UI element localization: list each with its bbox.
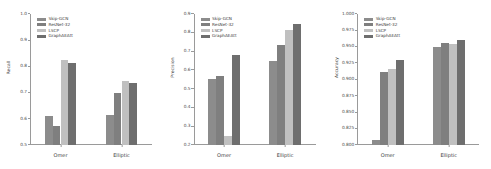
- y-tick-mark: [28, 118, 30, 119]
- legend-swatch-icon: [37, 35, 46, 38]
- legend-item: ResNet-32: [37, 23, 73, 27]
- x-tick-mark: [60, 145, 61, 147]
- legend-swatch-icon: [364, 18, 373, 21]
- bar: [129, 83, 137, 145]
- legend-item: GraphAEAtt: [201, 34, 237, 38]
- legend-swatch-icon: [364, 35, 373, 38]
- bar: [388, 69, 396, 145]
- y-tick-mark: [191, 51, 193, 52]
- legend-item: ResNet-32: [364, 23, 400, 27]
- bar: [433, 47, 441, 145]
- legend-item: Skip-GCN: [364, 17, 400, 21]
- x-tick-label: Elliptic: [440, 152, 457, 158]
- y-tick-mark: [191, 69, 193, 70]
- legend-label: Skip-GCN: [49, 17, 69, 21]
- legend-swatch-icon: [364, 23, 373, 26]
- y-tick-mark: [191, 88, 193, 89]
- legend-item: LSCP: [364, 29, 400, 33]
- y-axis-label-precision: Precision: [166, 0, 180, 134]
- x-tick-mark: [387, 145, 388, 147]
- bar: [449, 44, 457, 145]
- y-tick-mark: [355, 128, 357, 129]
- legend-label: Skip-GCN: [376, 17, 396, 21]
- y-tick-mark: [28, 40, 30, 41]
- legend-item: Skip-GCN: [37, 17, 73, 21]
- bar: [106, 115, 114, 145]
- bar: [224, 136, 232, 145]
- y-tick-mark: [355, 62, 357, 63]
- bar: [441, 43, 449, 145]
- bar: [277, 45, 285, 145]
- y-tick-mark: [191, 144, 193, 145]
- legend-item: LSCP: [37, 29, 73, 33]
- legend-precision: Skip-GCNResNet-32LSCPGraphAEAtt: [201, 17, 237, 39]
- legend-recall: Skip-GCNResNet-32LSCPGraphAEAtt: [37, 17, 73, 39]
- legend-label: ResNet-32: [212, 23, 234, 27]
- y-tick-mark: [191, 126, 193, 127]
- legend-item: LSCP: [201, 29, 237, 33]
- legend-label: GraphAEAtt: [49, 34, 73, 38]
- bar: [45, 116, 53, 145]
- legend-item: GraphAEAtt: [37, 34, 73, 38]
- y-tick-mark: [355, 95, 357, 96]
- legend-swatch-icon: [201, 35, 210, 38]
- y-tick-mark: [28, 66, 30, 67]
- chart-panel-precision: Precision 0.20.30.40.50.60.70.80.9 OmerE…: [164, 0, 328, 169]
- y-axis-line: [194, 14, 195, 145]
- bar: [122, 81, 130, 145]
- bar: [68, 63, 76, 145]
- legend-label: GraphAEAtt: [212, 34, 236, 38]
- bar: [232, 55, 240, 145]
- bar: [53, 126, 61, 145]
- y-tick-mark: [191, 13, 193, 14]
- legend-label: LSCP: [212, 29, 222, 33]
- bar: [61, 60, 69, 145]
- x-tick-label: Omer: [217, 152, 231, 158]
- y-tick-mark: [355, 30, 357, 31]
- bar: [293, 24, 301, 145]
- chart-panel-accuracy: Accuracy 0.8000.8250.8500.8750.9000.9250…: [327, 0, 491, 169]
- x-tick-mark: [448, 145, 449, 147]
- y-tick-mark: [191, 107, 193, 108]
- x-tick-label: Omer: [381, 152, 395, 158]
- legend-swatch-icon: [37, 18, 46, 21]
- bar: [216, 76, 224, 145]
- y-tick-mark: [355, 144, 357, 145]
- legend-label: Skip-GCN: [212, 17, 232, 21]
- legend-label: LSCP: [49, 29, 59, 33]
- chart-panel-recall: Recall 0.50.60.70.80.91.0 OmerElliptic S…: [0, 0, 164, 169]
- x-tick-label: Elliptic: [113, 152, 130, 158]
- figure-grouped-bar-charts: Recall 0.50.60.70.80.91.0 OmerElliptic S…: [0, 0, 491, 169]
- bar: [285, 30, 293, 145]
- legend-swatch-icon: [201, 29, 210, 32]
- y-tick-mark: [191, 32, 193, 33]
- legend-swatch-icon: [37, 29, 46, 32]
- y-tick-mark: [355, 46, 357, 47]
- y-tick-mark: [355, 13, 357, 14]
- bar: [269, 61, 277, 145]
- y-tick-mark: [28, 13, 30, 14]
- y-tick-mark: [28, 92, 30, 93]
- x-tick-mark: [285, 145, 286, 147]
- y-tick-mark: [355, 79, 357, 80]
- x-tick-mark: [121, 145, 122, 147]
- bar: [396, 60, 404, 145]
- legend-label: GraphAEAtt: [376, 34, 400, 38]
- legend-label: ResNet-32: [49, 23, 71, 27]
- bar: [114, 93, 122, 145]
- x-tick-label: Omer: [54, 152, 68, 158]
- legend-item: ResNet-32: [201, 23, 237, 27]
- bar: [457, 40, 465, 145]
- bar: [208, 79, 216, 145]
- bar: [372, 140, 380, 145]
- y-tick-mark: [28, 144, 30, 145]
- y-axis-label-recall: Recall: [2, 0, 16, 134]
- y-tick-mark: [355, 112, 357, 113]
- legend-swatch-icon: [201, 23, 210, 26]
- legend-item: Skip-GCN: [201, 17, 237, 21]
- y-axis-line: [30, 14, 31, 145]
- legend-accuracy: Skip-GCNResNet-32LSCPGraphAEAtt: [364, 17, 400, 39]
- legend-item: GraphAEAtt: [364, 34, 400, 38]
- legend-label: LSCP: [376, 29, 386, 33]
- legend-swatch-icon: [201, 18, 210, 21]
